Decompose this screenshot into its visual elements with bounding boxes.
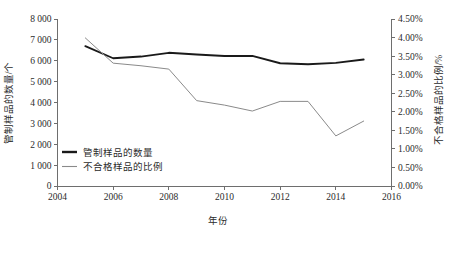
y-tick-label: 5 000 — [30, 77, 52, 87]
x-tick-label: 2004 — [48, 192, 67, 202]
y-tick-label: 4 000 — [30, 98, 52, 108]
y2-tick-label: 3.50% — [398, 52, 423, 62]
y-tick-label: 0 — [47, 181, 52, 191]
y-tick-label: 7 000 — [30, 35, 52, 45]
x-tick-label: 2016 — [382, 192, 401, 202]
y-tick-label: 1 000 — [30, 161, 52, 171]
y-axis-title: 管制样品的数量/个 — [3, 62, 14, 145]
y2-axis-title: 不合格样品的比例/% — [433, 55, 444, 146]
y-tick-label: 6 000 — [30, 56, 52, 66]
x-tick-label: 2014 — [326, 192, 345, 202]
x-tick-label: 2010 — [215, 192, 234, 202]
y2-tick-label: 2.50% — [398, 89, 423, 99]
y2-tick-label: 2.00% — [398, 107, 423, 117]
y2-tick-label: 0.00% — [398, 181, 423, 191]
y2-tick-label: 0.50% — [398, 163, 423, 173]
y2-tick-label: 1.00% — [398, 144, 423, 154]
y2-tick-label: 3.00% — [398, 70, 423, 80]
x-tick-label: 2006 — [104, 192, 123, 202]
x-tick-label: 2008 — [159, 192, 178, 202]
legend-label-2: 不合格样品的比例 — [83, 161, 163, 172]
line-chart: 01 0002 0003 0004 0005 0006 0007 0008 00… — [0, 0, 451, 253]
y-axis-tick-labels: 01 0002 0003 0004 0005 0006 0007 0008 00… — [30, 14, 52, 191]
chart-container: 01 0002 0003 0004 0005 0006 0007 0008 00… — [0, 0, 451, 253]
x-tick-label: 2012 — [271, 192, 290, 202]
y-tick-label: 2 000 — [30, 140, 52, 150]
x-axis-title: 年份 — [208, 215, 228, 226]
y2-tick-label: 4.50% — [398, 14, 423, 24]
legend-label-1: 管制样品的数量 — [83, 147, 153, 158]
y-tick-label: 8 000 — [30, 14, 52, 24]
y-tick-label: 3 000 — [30, 119, 52, 129]
y2-tick-label: 4.00% — [398, 33, 423, 43]
y2-tick-label: 1.50% — [398, 126, 423, 136]
